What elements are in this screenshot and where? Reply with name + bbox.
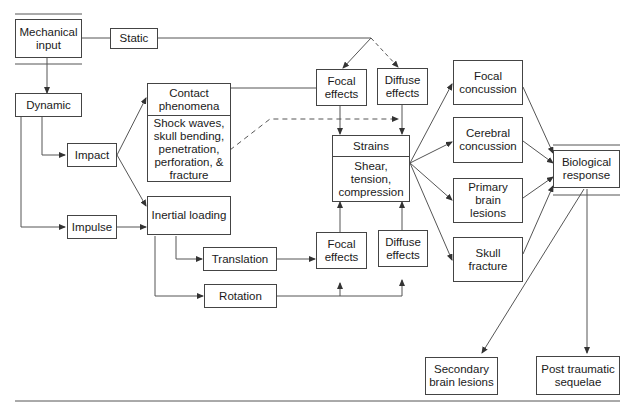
node-label: Impact bbox=[68, 144, 116, 166]
node-focal-effects-bottom: Focal effects bbox=[316, 232, 367, 269]
node-dynamic: Dynamic bbox=[15, 93, 82, 117]
node-focal-concussion: Focal concussion bbox=[453, 60, 523, 105]
node-label: Skull fracture bbox=[454, 238, 522, 281]
node-label: Focal concussion bbox=[454, 61, 522, 104]
node-label: Impulse bbox=[68, 216, 116, 238]
node-impulse: Impulse bbox=[67, 215, 117, 239]
node-label: Biological response bbox=[554, 151, 619, 187]
node-label: Diffuse effects bbox=[379, 231, 427, 266]
node-inertial-loading: Inertial loading bbox=[147, 196, 231, 235]
node-mechanical-input: Mechanical input bbox=[15, 19, 82, 58]
node-diffuse-effects-top: Diffuse effects bbox=[377, 68, 428, 105]
node-focal-effects-top: Focal effects bbox=[316, 69, 367, 106]
node-label: Post traumatic sequelae bbox=[537, 357, 619, 394]
node-label: Cerebral concussion bbox=[454, 118, 522, 162]
node-static: Static bbox=[110, 28, 158, 49]
node-rotation: Rotation bbox=[204, 284, 277, 308]
node-translation: Translation bbox=[203, 247, 277, 271]
node-label: Rotation bbox=[205, 285, 276, 307]
node-secondary-brain-lesions: Secondary brain lesions bbox=[425, 357, 498, 395]
node-cerebral-concussion: Cerebral concussion bbox=[453, 117, 523, 163]
node-contact-phenomena: Contact phenomena Shock waves, skull ben… bbox=[147, 83, 231, 182]
node-primary-brain-lesions: Primary brain lesions bbox=[453, 178, 523, 223]
node-post-traumatic-sequelae: Post traumatic sequelae bbox=[536, 356, 620, 395]
node-label: Inertial loading bbox=[148, 197, 230, 234]
node-skull-fracture: Skull fracture bbox=[453, 237, 523, 282]
node-impact: Impact bbox=[67, 143, 117, 167]
connector-layer bbox=[0, 0, 633, 416]
node-label: Secondary brain lesions bbox=[426, 358, 497, 394]
node-label: Dynamic bbox=[16, 94, 81, 116]
node-detail: Shock waves, skull bending, penetration,… bbox=[148, 115, 230, 183]
node-label: Focal effects bbox=[317, 70, 366, 105]
node-title: Strains bbox=[333, 136, 409, 156]
node-diffuse-effects-bottom: Diffuse effects bbox=[378, 230, 428, 267]
node-label: Mechanical input bbox=[16, 20, 81, 57]
node-label: Primary brain lesions bbox=[454, 179, 522, 222]
node-label: Translation bbox=[204, 248, 276, 270]
node-biological-response: Biological response bbox=[553, 150, 620, 188]
node-detail: Shear, tension, compression bbox=[333, 156, 409, 201]
node-label: Static bbox=[111, 29, 157, 48]
node-label: Focal effects bbox=[317, 233, 366, 268]
node-strains: Strains Shear, tension, compression bbox=[332, 135, 410, 202]
node-title: Contact phenomena bbox=[148, 84, 230, 115]
node-label: Diffuse effects bbox=[378, 69, 427, 104]
